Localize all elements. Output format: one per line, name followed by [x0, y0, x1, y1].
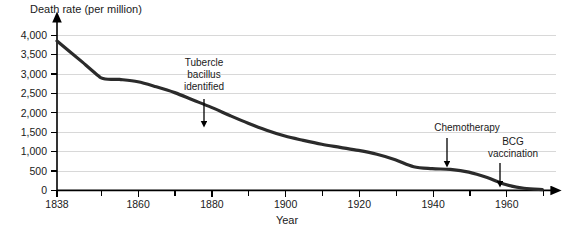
- y-axis-title: Death rate (per million): [30, 3, 142, 15]
- annotation-bcg-vaccination: BCG vaccination: [488, 136, 538, 182]
- annotation-tubercle-bacillus: Tubercle bacillus identified: [184, 57, 224, 122]
- y-tick-label-4000: 4,000: [21, 29, 47, 41]
- y-tick-label-0: 0: [41, 184, 47, 196]
- x-tick-label-1900: 1900: [274, 198, 298, 210]
- chart-canvas: 4,000 3,500 3,000 2,500 2,000 1,500 1,00…: [0, 0, 570, 231]
- tuberculosis-death-rate-chart: 4,000 3,500 3,000 2,500 2,000 1,500 1,00…: [0, 0, 570, 231]
- y-tick-label-1000: 1,000: [21, 145, 47, 157]
- annotation-tubercle-line-1: Tubercle: [185, 57, 224, 68]
- annotation-bcg-line-2: vaccination: [488, 148, 538, 159]
- annotation-tubercle-line-3: identified: [184, 81, 224, 92]
- x-tick-label-1920: 1920: [348, 198, 372, 210]
- gridlines: [57, 35, 556, 171]
- x-tick-label-1860: 1860: [126, 198, 150, 210]
- y-tick-label-2000: 2,000: [21, 107, 47, 119]
- y-tick-label-3000: 3,000: [21, 68, 47, 80]
- x-axis-title: Year: [276, 214, 299, 226]
- x-tick-label-1838: 1838: [45, 198, 69, 210]
- y-tick-label-500: 500: [29, 165, 47, 177]
- y-tick-label-3500: 3,500: [21, 48, 47, 60]
- y-tick-label-1500: 1,500: [21, 126, 47, 138]
- annotation-tubercle-line-2: bacillus: [187, 69, 220, 80]
- y-tick-label-2500: 2,500: [21, 87, 47, 99]
- x-axis-minor-ticks: [101, 190, 544, 196]
- x-tick-label-1880: 1880: [200, 198, 224, 210]
- annotation-chemotherapy-line-1: Chemotherapy: [434, 122, 500, 133]
- y-axis-tick-labels: 4,000 3,500 3,000 2,500 2,000 1,500 1,00…: [21, 29, 47, 196]
- x-tick-label-1960: 1960: [495, 198, 519, 210]
- x-tick-label-1940: 1940: [421, 198, 445, 210]
- x-axis-ticks: [57, 190, 507, 197]
- x-axis-tick-labels: 1838 1860 1880 1900 1920 1940 1960: [45, 198, 518, 210]
- y-axis-ticks: [51, 35, 57, 190]
- annotation-bcg-line-1: BCG: [502, 136, 524, 147]
- data-line-tuberculosis-death-rate: [57, 41, 542, 190]
